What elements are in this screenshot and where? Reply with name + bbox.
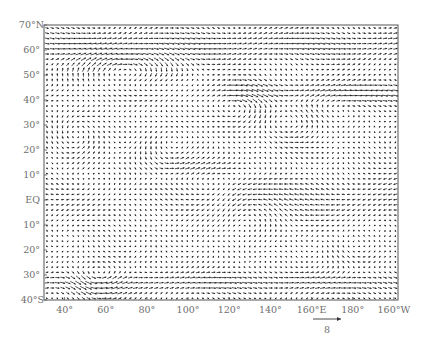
y-tick-label: 40°S <box>0 295 44 305</box>
x-tick-label: 160°E <box>297 304 327 315</box>
x-tick-label: 160°W <box>378 304 411 315</box>
x-tick-label: 120° <box>218 304 241 315</box>
y-tick-label: 60° <box>0 45 40 55</box>
x-tick-label: 180° <box>341 304 364 315</box>
x-tick-label: 140° <box>259 304 282 315</box>
x-tick-label: 80° <box>138 304 155 315</box>
x-tick-label: 100° <box>177 304 200 315</box>
y-tick-label: 10° <box>0 170 40 180</box>
y-tick-label: 20° <box>0 245 40 255</box>
y-tick-label: 70°N <box>0 20 44 30</box>
reference-arrow <box>313 317 341 321</box>
y-tick-label: 10° <box>0 220 40 230</box>
y-tick-label: 30° <box>0 270 40 280</box>
vector-field-chart <box>0 0 430 348</box>
x-tick-label: 40° <box>56 304 73 315</box>
y-tick-label: 30° <box>0 120 40 130</box>
y-tick-label: 40° <box>0 95 40 105</box>
x-tick-label: 60° <box>97 304 114 315</box>
y-tick-label: 50° <box>0 70 40 80</box>
wind-vectors <box>45 27 399 300</box>
reference-vector-label: 8 <box>324 324 330 335</box>
y-tick-label: EQ <box>0 195 40 205</box>
y-tick-label: 20° <box>0 145 40 155</box>
